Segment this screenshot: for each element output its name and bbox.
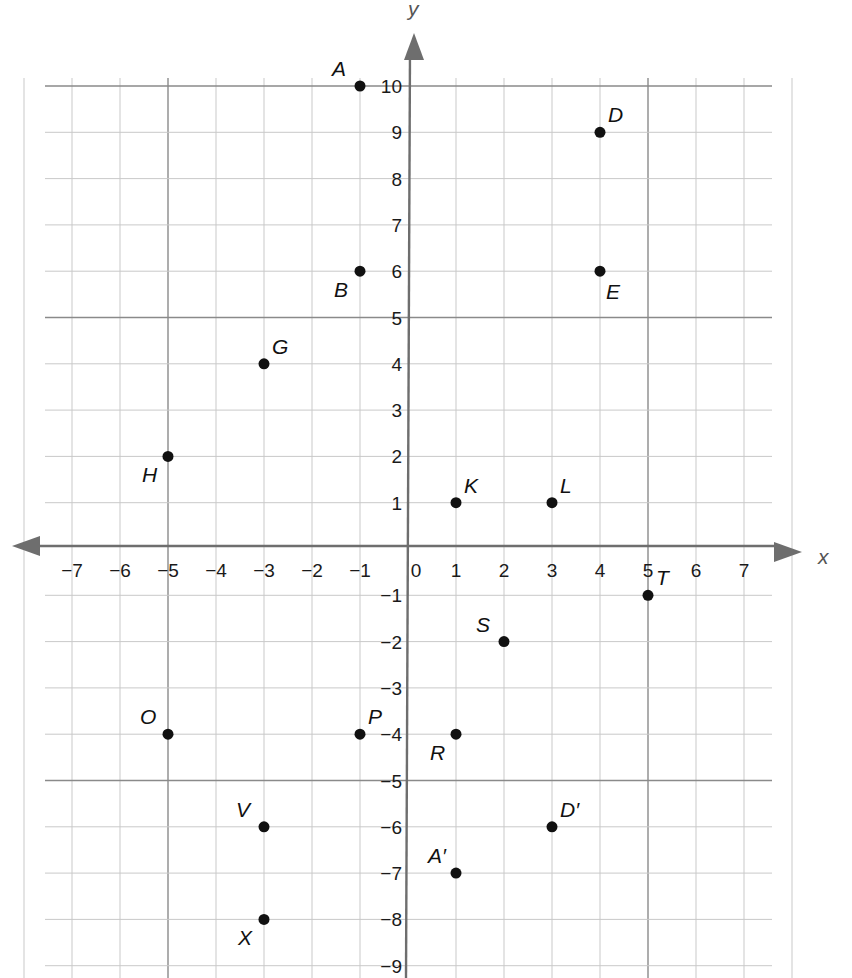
point-label: G xyxy=(272,335,288,358)
point-marker xyxy=(547,821,558,832)
point-marker xyxy=(451,729,462,740)
y-tick-label: 4 xyxy=(391,354,402,375)
y-axis-arrow-icon xyxy=(404,33,424,60)
point-marker xyxy=(259,821,270,832)
point-label: V xyxy=(236,798,252,821)
y-tick-label: −9 xyxy=(380,956,402,977)
point-marker xyxy=(259,358,270,369)
x-tick-label: 4 xyxy=(595,560,606,581)
y-tick-label: −1 xyxy=(380,585,402,606)
y-tick-label: −4 xyxy=(380,724,402,745)
point-marker xyxy=(163,451,174,462)
x-tick-label: 7 xyxy=(739,560,750,581)
point-label: E xyxy=(606,280,621,303)
point-marker xyxy=(595,266,606,277)
point-label: D xyxy=(608,103,623,126)
y-tick-label: −3 xyxy=(380,678,402,699)
x-tick-label: 0 xyxy=(411,560,422,581)
point-label: H xyxy=(142,463,158,486)
point-label: X xyxy=(237,926,253,949)
y-axis-label: y xyxy=(406,0,420,20)
point-marker xyxy=(595,127,606,138)
point-marker xyxy=(259,914,270,925)
tick-labels: −7−6−5−4−3−2−10123456710987654321−1−2−3−… xyxy=(61,76,749,977)
y-tick-label: 8 xyxy=(391,169,402,190)
x-tick-label: 1 xyxy=(451,560,462,581)
point-marker xyxy=(643,590,654,601)
y-tick-label: 3 xyxy=(391,400,402,421)
point-label: S xyxy=(476,613,490,636)
x-axis-label: x xyxy=(817,545,830,568)
point-label: T xyxy=(656,566,671,589)
x-tick-label: 3 xyxy=(547,560,558,581)
point-label: P xyxy=(368,705,382,728)
x-tick-label: −2 xyxy=(301,560,323,581)
x-tick-label: 2 xyxy=(499,560,510,581)
y-tick-label: 1 xyxy=(391,493,402,514)
y-axis xyxy=(406,50,410,978)
y-tick-label: 10 xyxy=(381,76,402,97)
x-tick-label: −1 xyxy=(349,560,371,581)
y-tick-label: −6 xyxy=(380,817,402,838)
x-tick-label: −3 xyxy=(253,560,275,581)
x-tick-label: −5 xyxy=(157,560,179,581)
x-tick-label: 6 xyxy=(691,560,702,581)
point-marker xyxy=(499,636,510,647)
point-label: A′ xyxy=(426,844,447,867)
x-axis-left-arrow-icon xyxy=(12,536,40,556)
y-tick-label: 2 xyxy=(391,446,402,467)
y-tick-label: 5 xyxy=(391,308,402,329)
x-axis-right-arrow-icon xyxy=(774,542,802,562)
point-label: K xyxy=(464,474,479,497)
point-marker xyxy=(547,497,558,508)
point-label: L xyxy=(560,474,572,497)
point-marker xyxy=(355,729,366,740)
point-marker xyxy=(355,81,366,92)
axes: x y xyxy=(12,0,830,978)
y-tick-label: 6 xyxy=(391,261,402,282)
y-tick-label: −7 xyxy=(380,863,402,884)
point-label: A xyxy=(330,57,346,80)
coordinate-plane: x y −7−6−5−4−3−2−10123456710987654321−1−… xyxy=(0,0,852,978)
point-label: O xyxy=(140,705,156,728)
point-marker xyxy=(163,729,174,740)
x-tick-label: −4 xyxy=(205,560,227,581)
x-tick-label: −7 xyxy=(61,560,83,581)
y-tick-label: 9 xyxy=(391,122,402,143)
point-marker xyxy=(451,868,462,879)
point-marker xyxy=(451,497,462,508)
x-tick-label: 5 xyxy=(643,560,654,581)
y-tick-label: −8 xyxy=(380,909,402,930)
y-tick-label: 7 xyxy=(391,215,402,236)
point-label: B xyxy=(334,278,348,301)
x-tick-label: −6 xyxy=(109,560,131,581)
y-tick-label: −5 xyxy=(380,771,402,792)
y-tick-label: −2 xyxy=(380,632,402,653)
point-marker xyxy=(355,266,366,277)
point-label: R xyxy=(430,741,445,764)
point-label: D′ xyxy=(560,798,580,821)
